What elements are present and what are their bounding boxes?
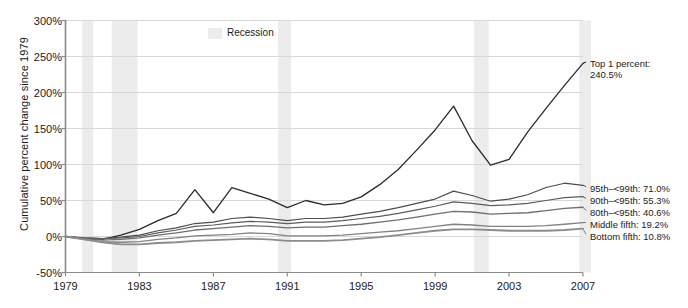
series-line bbox=[66, 223, 584, 243]
gridlines bbox=[66, 21, 584, 237]
end-label-95th-99th: 95th–<99th: 71.0% bbox=[590, 183, 670, 194]
series-lines bbox=[66, 62, 587, 244]
recession-legend-label: Recession bbox=[227, 27, 274, 38]
series-line bbox=[66, 197, 584, 239]
end-label-top-1-percent: Top 1 percent:240.5% bbox=[590, 58, 650, 80]
recession-legend-swatch bbox=[208, 28, 222, 39]
end-label-line-2: 240.5% bbox=[590, 69, 650, 80]
end-label-80th-95th: 80th–<95th: 40.6% bbox=[590, 207, 670, 218]
recession-band bbox=[112, 21, 138, 273]
end-label-line-1: Top 1 percent: bbox=[590, 58, 650, 69]
end-label-middle-fifth: Middle fifth: 19.2% bbox=[590, 219, 668, 230]
recession-band bbox=[82, 21, 93, 273]
chart-container: Cumulative percent change since 1979 -50… bbox=[0, 0, 688, 308]
end-label-bottom-fifth: Bottom fifth: 10.8% bbox=[590, 231, 670, 242]
end-label-90th-95th: 90th–<95th: 55.3% bbox=[590, 195, 670, 206]
plot-area bbox=[0, 0, 688, 308]
